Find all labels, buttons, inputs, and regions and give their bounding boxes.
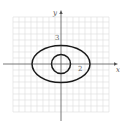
y-tick-label: 3 [55,34,59,42]
y-axis-arrow-icon [59,10,62,14]
y-axis-label: y [52,9,58,17]
x-tick-label: 2 [78,65,82,73]
x-axis-label: x [116,66,120,74]
coordinate-plane: y x 3 2 [0,0,120,123]
